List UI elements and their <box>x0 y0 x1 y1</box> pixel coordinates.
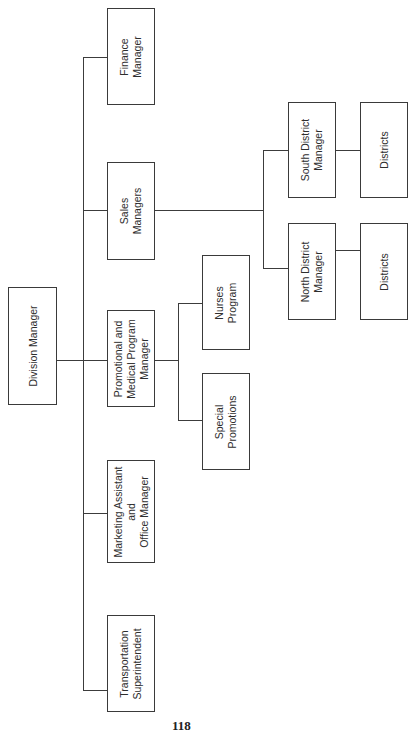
special-promotions-box: Special Promotions <box>202 373 250 470</box>
connector-special <box>178 420 202 421</box>
main-trunk-line <box>83 57 84 690</box>
south-district-manager-label: South District Manager <box>299 119 325 181</box>
special-promotions-label: Special Promotions <box>213 395 239 448</box>
north-districts-label: Districts <box>378 253 391 290</box>
north-district-manager-box: North District Manager <box>288 223 336 320</box>
page-number: 118 <box>172 718 191 734</box>
connector-sales <box>83 210 107 211</box>
connector-division-to-trunk <box>57 360 83 361</box>
division-manager-box: Division Manager <box>8 287 57 405</box>
south-districts-box: Districts <box>360 102 408 198</box>
marketing-assistant-box: Marketing Assistant and Office Manager <box>107 460 155 563</box>
promo-subtrunk-line <box>178 303 179 420</box>
connector-promo-to-subtrunk <box>155 360 178 361</box>
finance-manager-box: Finance Manager <box>107 8 155 105</box>
sales-managers-label: Sales Managers <box>118 188 144 235</box>
connector-finance <box>83 57 107 58</box>
connector-south-districts <box>336 150 360 151</box>
promotional-medical-manager-label: Promotional and Medical Program Manager <box>112 319 151 398</box>
marketing-assistant-label: Marketing Assistant and Office Manager <box>112 466 151 557</box>
connector-north-districts <box>336 250 360 251</box>
promotional-medical-manager-box: Promotional and Medical Program Manager <box>107 310 155 407</box>
finance-manager-label: Finance Manager <box>118 36 144 77</box>
sales-subtrunk-line <box>263 150 264 268</box>
connector-north-district <box>263 268 288 269</box>
transportation-superintendent-box: Transportation Superintendent <box>107 615 155 712</box>
connector-nurses <box>178 303 202 304</box>
connector-south-district <box>263 150 288 151</box>
nurses-program-label: Nurses Program <box>213 282 239 322</box>
connector-promotional <box>83 360 107 361</box>
connector-marketing <box>83 513 107 514</box>
north-district-manager-label: North District Manager <box>299 241 325 302</box>
sales-managers-box: Sales Managers <box>107 162 155 260</box>
transportation-superintendent-label: Transportation Superintendent <box>118 628 144 699</box>
nurses-program-box: Nurses Program <box>202 255 250 350</box>
north-districts-box: Districts <box>360 223 408 320</box>
south-districts-label: Districts <box>378 131 391 168</box>
division-manager-label: Division Manager <box>26 305 39 386</box>
connector-transportation <box>83 690 107 691</box>
south-district-manager-box: South District Manager <box>288 102 336 198</box>
connector-sales-to-subtrunk <box>155 210 263 211</box>
